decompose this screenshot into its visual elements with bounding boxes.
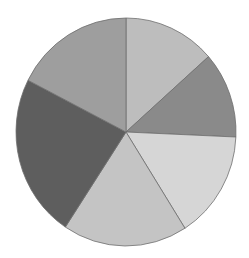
pie-chart (0, 0, 249, 258)
pie-slices (16, 18, 236, 246)
